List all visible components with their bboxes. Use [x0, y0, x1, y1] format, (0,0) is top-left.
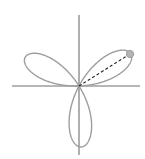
- rose-curve-group: [24, 50, 131, 147]
- rose-curve-path: [24, 50, 131, 147]
- rose-curve-figure: · ·: [0, 0, 145, 159]
- axes-group: [12, 15, 140, 155]
- edge-mark-lower: ·: [141, 52, 143, 57]
- polar-plot-canvas: [0, 0, 145, 159]
- petal-tip-marker: [126, 50, 133, 57]
- edge-mark-upper: ·: [141, 42, 143, 47]
